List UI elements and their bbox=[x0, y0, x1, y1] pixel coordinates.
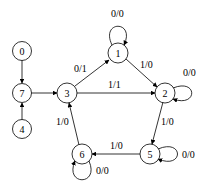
state-node-4: 4 bbox=[13, 120, 32, 139]
edge-3-1: 0/1 bbox=[74, 60, 109, 86]
edge-3-2: 1/1 bbox=[77, 79, 155, 93]
state-node-2: 2 bbox=[155, 83, 175, 103]
state-label-3: 3 bbox=[65, 88, 70, 99]
edge-1-2: 1/0 bbox=[126, 59, 157, 87]
edge-label-2-5: 1/0 bbox=[161, 116, 174, 127]
edge-5-6: 1/0 bbox=[92, 140, 140, 154]
state-diagram: 0/1 1/1 0/0 1/0 0/0 1/0 0/0 1/0 0/0 1/0 … bbox=[0, 0, 208, 186]
state-label-6: 6 bbox=[80, 149, 85, 160]
state-node-5: 5 bbox=[140, 144, 160, 164]
state-label-0: 0 bbox=[20, 46, 25, 57]
edge-1-1: 0/0 bbox=[110, 8, 127, 45]
state-node-7: 7 bbox=[13, 84, 32, 103]
state-label-7: 7 bbox=[20, 88, 25, 99]
edge-2-5: 1/0 bbox=[152, 102, 174, 144]
state-node-6: 6 bbox=[72, 144, 92, 164]
state-label-5: 5 bbox=[148, 149, 153, 160]
state-label-1: 1 bbox=[116, 48, 121, 59]
edge-2-2: 0/0 bbox=[173, 67, 196, 101]
edge-label-2-2: 0/0 bbox=[183, 67, 196, 78]
state-label-2: 2 bbox=[163, 88, 168, 99]
state-label-4: 4 bbox=[20, 124, 25, 135]
edge-label-5-5: 0/0 bbox=[182, 149, 195, 160]
edge-label-3-1: 0/1 bbox=[74, 63, 87, 74]
edge-label-1-2: 1/0 bbox=[140, 59, 153, 70]
edge-label-5-6: 1/0 bbox=[110, 140, 123, 151]
edge-6-3: 1/0 bbox=[56, 103, 79, 145]
edge-label-3-2: 1/1 bbox=[108, 79, 121, 90]
edge-label-6-6: 0/0 bbox=[96, 165, 109, 176]
edge-label-1-1: 0/0 bbox=[111, 8, 124, 19]
edge-6-6: 0/0 bbox=[73, 161, 109, 180]
edge-5-5: 0/0 bbox=[158, 147, 195, 162]
state-node-3: 3 bbox=[57, 83, 77, 103]
state-node-0: 0 bbox=[13, 42, 32, 61]
state-node-1: 1 bbox=[108, 43, 128, 63]
edge-label-6-3: 1/0 bbox=[56, 116, 69, 127]
